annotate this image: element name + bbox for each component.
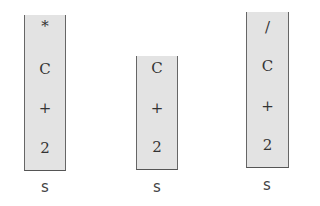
stack-2-item-top: C — [137, 59, 177, 77]
stack-3-item-3: + — [247, 97, 288, 115]
stack-3-item-top: / — [247, 18, 288, 36]
stack-1-item-3: + — [25, 99, 65, 117]
stack-1-label: s — [25, 178, 65, 196]
stack-1: * C + 2 — [24, 15, 66, 171]
stack-1-item-2: C — [25, 60, 65, 78]
stack-2-label: s — [137, 178, 177, 196]
stack-2-item-bottom: 2 — [137, 138, 177, 156]
stack-3-item-2: C — [247, 57, 288, 75]
stack-1-item-top: * — [25, 17, 65, 35]
stack-3-item-bottom: 2 — [247, 136, 288, 154]
stack-1-item-bottom: 2 — [25, 139, 65, 157]
stack-3-label: s — [247, 176, 287, 194]
stack-2-item-2: + — [137, 99, 177, 117]
stack-3: / C + 2 — [246, 12, 289, 168]
stack-2: C + 2 — [136, 56, 178, 170]
